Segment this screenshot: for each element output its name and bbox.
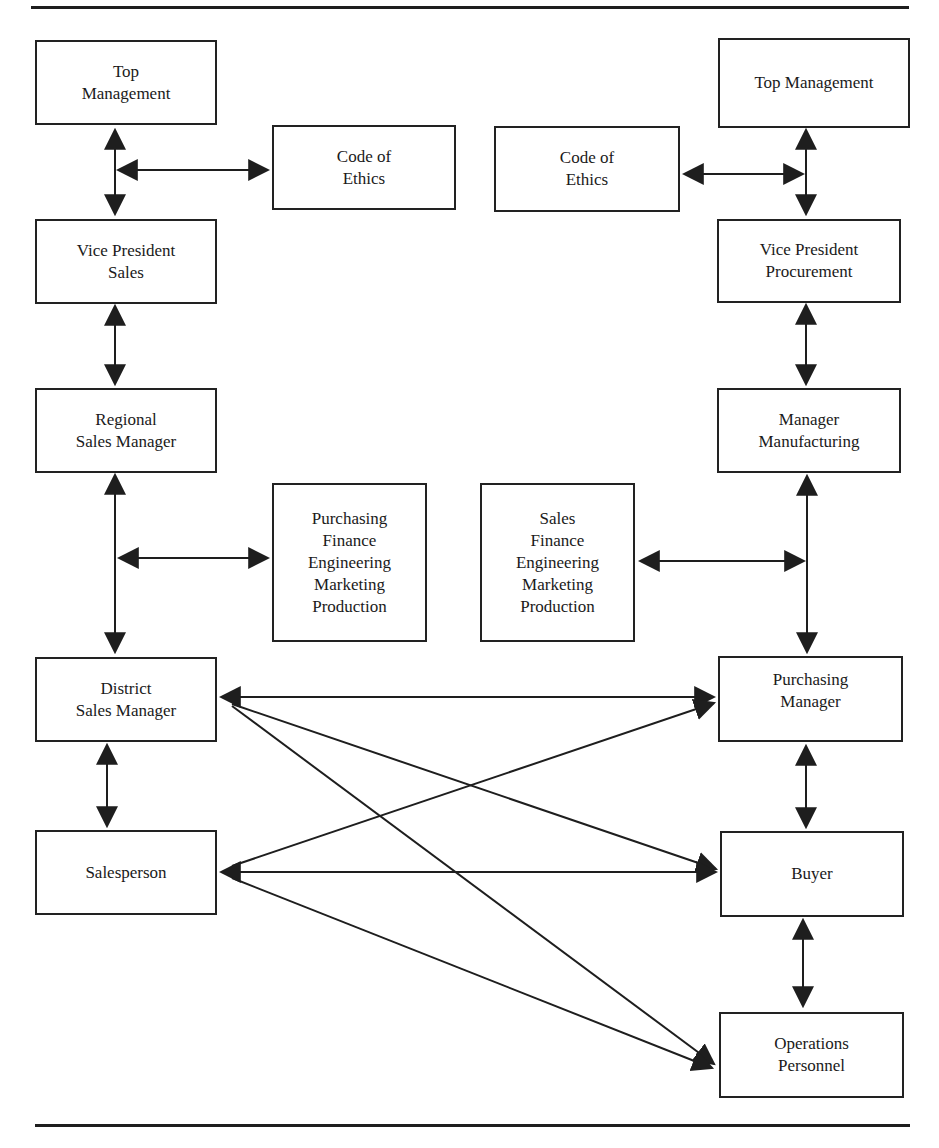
label: Regional Sales Manager	[76, 409, 177, 453]
box-buyer-operations-personnel: Operations Personnel	[719, 1012, 904, 1098]
arrow-district-to-buyer	[232, 704, 716, 869]
box-seller-other-departments: Purchasing Finance Engineering Marketing…	[272, 483, 427, 642]
label: Vice President Sales	[77, 240, 176, 284]
box-buyer-code-of-ethics: Code of Ethics	[494, 126, 680, 212]
label: Manager Manufacturing	[758, 409, 859, 453]
box-seller-salesperson: Salesperson	[35, 830, 217, 915]
box-buyer-manager-manufacturing: Manager Manufacturing	[717, 388, 901, 473]
box-buyer-top-management: Top Management	[718, 38, 910, 128]
box-buyer-other-departments: Sales Finance Engineering Marketing Prod…	[480, 483, 635, 642]
label: Salesperson	[85, 862, 166, 884]
label: Vice President Procurement	[760, 239, 859, 283]
label: Code of Ethics	[337, 146, 391, 190]
label: Top Management	[754, 72, 873, 94]
diagram-canvas: Top Management Code of Ethics Vice Presi…	[0, 0, 939, 1148]
label: Top Management	[82, 61, 171, 105]
label: Purchasing Manager	[773, 669, 849, 713]
label: Code of Ethics	[560, 147, 614, 191]
arrow-district-to-operations	[232, 706, 714, 1064]
label: Purchasing Finance Engineering Marketing…	[308, 508, 391, 618]
box-seller-vice-president-sales: Vice President Sales	[35, 219, 217, 304]
box-buyer-vice-president-procurement: Vice President Procurement	[717, 219, 901, 303]
box-buyer-purchasing-manager: Purchasing Manager	[718, 656, 903, 742]
label: District Sales Manager	[76, 678, 177, 722]
arrow-salesperson-to-purchasing-manager	[232, 703, 714, 866]
box-seller-code-of-ethics: Code of Ethics	[272, 125, 456, 210]
label: Sales Finance Engineering Marketing Prod…	[516, 508, 599, 618]
label: Buyer	[791, 863, 833, 885]
connector-layer	[0, 0, 939, 1148]
box-seller-top-management: Top Management	[35, 40, 217, 125]
label: Operations Personnel	[774, 1033, 849, 1077]
box-buyer-buyer: Buyer	[720, 831, 904, 917]
box-seller-district-sales-manager: District Sales Manager	[35, 657, 217, 742]
box-seller-regional-sales-manager: Regional Sales Manager	[35, 388, 217, 473]
arrow-salesperson-to-operations	[232, 878, 712, 1068]
